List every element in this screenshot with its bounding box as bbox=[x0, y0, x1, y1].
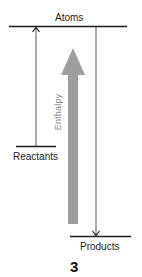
figure-number: 3 bbox=[70, 259, 78, 274]
atoms-label: Atoms bbox=[55, 13, 83, 23]
reactants-label: Reactants bbox=[13, 152, 58, 162]
enthalpy-diagram-canvas bbox=[0, 0, 142, 277]
products-label: Products bbox=[80, 242, 119, 252]
enthalpy-axis-label: Enthalpy bbox=[53, 90, 63, 134]
enthalpy-axis-arrow-icon bbox=[61, 48, 85, 224]
up-arrow-icon bbox=[33, 28, 40, 147]
down-arrow-icon bbox=[93, 27, 100, 236]
